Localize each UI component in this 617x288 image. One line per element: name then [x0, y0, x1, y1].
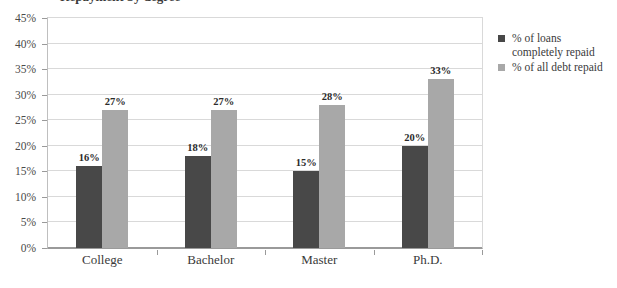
y-axis-tick-mark — [42, 120, 47, 121]
x-axis-tick-label: Bachelor — [187, 252, 234, 268]
bar — [102, 110, 128, 248]
y-axis-tick-mark — [42, 197, 47, 198]
x-axis-tick-label: College — [82, 252, 122, 268]
chart-legend: % of loans completely repaid% of all deb… — [498, 31, 610, 75]
bar-value-label: 27% — [105, 96, 126, 107]
bar — [293, 171, 319, 248]
x-axis-tick-label: Ph.D. — [413, 252, 443, 268]
y-axis-tick-mark — [42, 18, 47, 19]
bar — [319, 105, 345, 248]
legend-entry[interactable]: % of all debt repaid — [498, 60, 610, 74]
bar-value-label: 28% — [322, 91, 343, 102]
y-axis: 0%5%10%15%20%25%30%35%40%45% — [0, 17, 42, 249]
x-axis-tick-label: Master — [301, 252, 337, 268]
y-axis-tick-mark — [42, 248, 47, 249]
y-axis-tick-label: 15% — [15, 165, 36, 177]
legend-label: % of loans completely repaid — [512, 31, 610, 59]
y-axis-tick-label: 45% — [15, 12, 36, 24]
y-axis-tick-label: 10% — [15, 191, 36, 203]
bar-value-label: 18% — [187, 142, 208, 153]
y-axis-tick-label: 25% — [15, 114, 36, 126]
bar-value-label: 33% — [430, 65, 451, 76]
y-axis-tick-mark — [42, 171, 47, 172]
legend-swatch-icon — [498, 64, 505, 71]
y-axis-tick-label: 30% — [15, 89, 36, 101]
bar-value-label: 20% — [404, 132, 425, 143]
y-axis-tick-label: 40% — [15, 38, 36, 50]
y-axis-tick-label: 35% — [15, 63, 36, 75]
y-axis-tick-mark — [42, 44, 47, 45]
y-axis-tick-mark — [42, 69, 47, 70]
x-axis: CollegeBachelorMasterPh.D. — [47, 252, 483, 274]
y-axis-tick-mark — [42, 146, 47, 147]
y-axis-tick-mark — [42, 222, 47, 223]
bar-value-label: 15% — [296, 157, 317, 168]
bar-value-label: 27% — [213, 96, 234, 107]
y-axis-tick-label: 5% — [21, 216, 36, 228]
bars-layer: 16%27%18%27%15%28%20%33% — [48, 18, 482, 248]
y-axis-tick-label: 20% — [15, 140, 36, 152]
legend-entry[interactable]: % of loans completely repaid — [498, 31, 610, 59]
bar-chart: 0%5%10%15%20%25%30%35%40%45% 16%27%18%27… — [0, 0, 617, 288]
bar — [402, 146, 428, 248]
bar — [76, 166, 102, 248]
legend-label: % of all debt repaid — [512, 60, 603, 74]
bar — [211, 110, 237, 248]
bar-value-label: 16% — [79, 152, 100, 163]
y-axis-tick-mark — [42, 95, 47, 96]
legend-swatch-icon — [498, 35, 505, 42]
y-axis-tick-label: 0% — [21, 242, 36, 254]
bar — [428, 79, 454, 248]
bar — [185, 156, 211, 248]
